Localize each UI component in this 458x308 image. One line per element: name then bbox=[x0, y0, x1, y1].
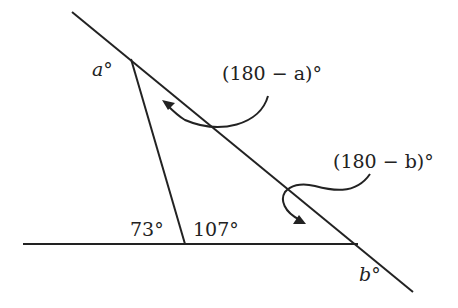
label-angle-b: b° bbox=[359, 263, 381, 285]
label-supp-b: (180 − b)° bbox=[333, 150, 434, 172]
label-angle-73: 73° bbox=[130, 218, 164, 240]
label-supp-a: (180 − a)° bbox=[222, 62, 322, 84]
label-angle-107: 107° bbox=[193, 218, 239, 240]
angle-diagram: a° (180 − a)° (180 − b)° 73° 107° b° bbox=[0, 0, 458, 308]
triangle-side bbox=[131, 59, 185, 244]
arrowhead-icon bbox=[162, 100, 175, 110]
label-angle-a: a° bbox=[92, 58, 113, 80]
